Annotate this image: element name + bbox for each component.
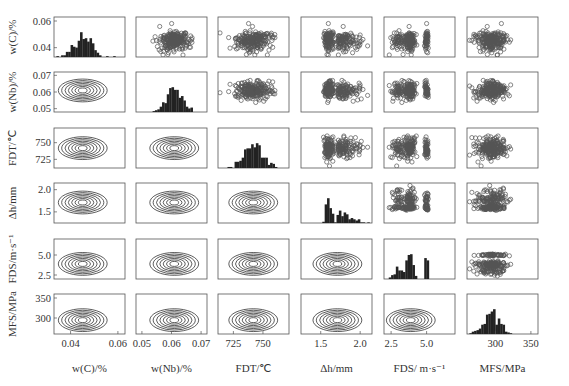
histogram-bar [332, 214, 335, 223]
histogram-bar [113, 56, 116, 57]
x-tick-label: 0.07 [192, 338, 210, 349]
panel-r3-c3 [218, 128, 289, 168]
histogram-bar [256, 143, 259, 168]
x-tick-label: 0.06 [162, 338, 180, 349]
panel-r5-c5 [384, 239, 455, 279]
histogram-bar [474, 331, 477, 334]
panel-frame [136, 183, 207, 223]
panel-r5-c1: 2.55.0 [38, 239, 125, 281]
y-tick-label: 2.5 [38, 270, 51, 281]
x-tick-label: 2.5 [385, 338, 398, 349]
histogram-bar [179, 98, 182, 112]
histogram-bar [495, 325, 498, 334]
histogram-bar [239, 161, 242, 168]
histogram-bar [405, 260, 408, 279]
histogram-bar [415, 276, 418, 279]
histogram-bar [254, 147, 257, 168]
histogram-bar [249, 148, 252, 168]
panel-r2-c6 [467, 72, 538, 112]
histogram-bar [507, 332, 510, 334]
histogram-bar [393, 274, 396, 279]
panel-frame [136, 128, 207, 168]
y-tick-label: 0.05 [33, 103, 51, 114]
histogram-bar [73, 47, 76, 57]
panel-r1-c4 [301, 17, 372, 57]
histogram-bar [263, 158, 266, 168]
panel-r6-c5: 2.55.0 [384, 294, 455, 349]
histogram-bar [412, 265, 415, 279]
panel-r3-c4 [301, 128, 372, 168]
histogram-bar [353, 219, 356, 223]
x-axis-label-4: Δh/mm [320, 362, 353, 374]
histogram-bar [500, 324, 503, 334]
histogram-bar [479, 329, 482, 334]
panel-frame [301, 239, 372, 279]
histogram-bar [71, 45, 74, 57]
histogram-bar [56, 56, 59, 57]
panel-r4-c4 [301, 183, 372, 223]
histogram-bar [389, 277, 392, 279]
histogram-bar [337, 215, 340, 223]
panel-r2-c3 [218, 72, 289, 112]
histogram-bar [235, 162, 238, 168]
y-tick-label: 5.0 [38, 250, 51, 261]
histogram-bar [82, 39, 85, 57]
panel-r1-c6 [467, 17, 538, 57]
panel-r5-c4 [301, 239, 372, 279]
histogram-bar [503, 325, 506, 334]
histogram-bar [275, 167, 278, 168]
histogram-bar [424, 258, 427, 279]
y-tick-label: 725 [35, 154, 51, 165]
y-axis-label-1: w(C)/% [6, 20, 19, 55]
histogram-bar [360, 222, 363, 223]
histogram-bar [167, 94, 170, 112]
panel-r2-c4 [301, 72, 372, 112]
histogram-bar [155, 110, 158, 112]
histogram-bar [488, 314, 491, 334]
histogram-bar [172, 87, 175, 112]
panel-r3-c6 [467, 128, 538, 168]
panel-r6-c2: 0.050.060.07 [133, 294, 211, 349]
histogram-bar [367, 222, 370, 223]
histogram-bar [401, 270, 404, 279]
x-tick-label: 2.0 [354, 338, 367, 349]
histogram-bar [190, 108, 193, 112]
histogram-bar [476, 330, 479, 334]
histogram-bar [358, 219, 361, 223]
x-tick-label: 0.05 [133, 338, 151, 349]
panel-r4-c5 [384, 183, 455, 223]
histogram-bar [174, 90, 177, 112]
histogram-bar [339, 211, 342, 223]
histogram-bar [176, 90, 179, 112]
histogram-bar [391, 275, 394, 279]
y-tick-label: 350 [35, 293, 51, 304]
histogram-bar [510, 333, 513, 334]
panel-r4-c2 [136, 183, 207, 223]
x-tick-label: 350 [523, 338, 539, 349]
histogram-bar [486, 315, 489, 334]
panel-r4-c6 [467, 183, 538, 223]
histogram-bar [493, 309, 496, 334]
histogram-bar [355, 221, 358, 223]
panel-r5-c3 [218, 239, 289, 279]
panel-r4-c1: 1.52.0 [38, 183, 125, 223]
x-axis-label-5: FDS/ m·s⁻¹ [394, 362, 446, 374]
histogram-bar [408, 255, 411, 279]
panel-r1-c1: 0.040.06 [33, 16, 125, 58]
histogram-bar [87, 42, 90, 57]
histogram-bar [268, 165, 271, 168]
pair-plot-figure: 0.040.060.050.060.077257501.52.02.55.030… [0, 0, 569, 386]
x-tick-label: 750 [255, 338, 271, 349]
histogram-bar [80, 32, 83, 57]
histogram-bar [106, 56, 109, 57]
panel-r6-c1: 3003500.040.06 [35, 293, 127, 350]
x-axis-label-2: w(Nb)/% [151, 362, 192, 375]
x-tick-label: 725 [226, 338, 242, 349]
panel-r3-c2 [136, 128, 207, 168]
histogram-bar [427, 260, 430, 279]
y-tick-label: 0.06 [33, 16, 51, 27]
panel-frame [218, 294, 289, 334]
histogram-bar [181, 96, 184, 112]
panel-r4-c3 [218, 183, 289, 223]
histogram-bar [244, 149, 247, 168]
